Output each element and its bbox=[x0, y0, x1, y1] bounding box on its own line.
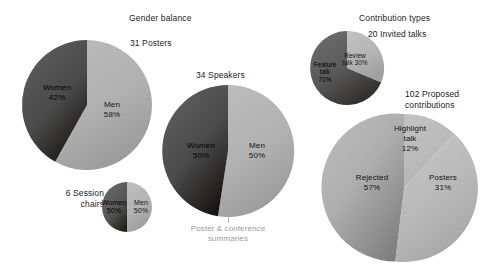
pie-posters-svg bbox=[22, 40, 152, 170]
caption-line2: summaries bbox=[168, 234, 288, 244]
figure-canvas: Gender balance 31 Posters bbox=[0, 0, 501, 267]
heading-contribution-types: Contribution types bbox=[359, 13, 430, 24]
subtitle-session-chairs-line1: 6 Session bbox=[60, 188, 104, 199]
pie-invited-talks-svg bbox=[310, 31, 384, 105]
subtitle-session-chairs-line2: chairs bbox=[60, 199, 104, 210]
pie-chart-proposed-contributions bbox=[330, 114, 478, 262]
subtitle-6-session-chairs: 6 Session chairs bbox=[60, 188, 104, 210]
heading-gender-balance: Gender balance bbox=[129, 13, 192, 24]
subtitle-102-proposed-contributions: 102 Proposed contributions bbox=[405, 89, 459, 111]
pie-chart-posters bbox=[22, 40, 152, 170]
pie-proposed-svg bbox=[330, 114, 478, 262]
pie-chart-speakers bbox=[162, 85, 294, 217]
caption-line1: Poster & conference bbox=[168, 224, 288, 234]
caption-poster-conference-summaries: Poster & conference summaries bbox=[168, 224, 288, 245]
pie-chart-session-chairs bbox=[102, 182, 152, 232]
subtitle-34-speakers: 34 Speakers bbox=[196, 70, 245, 81]
subtitle-proposed-line2: contributions bbox=[405, 100, 459, 111]
slice-chairs-women bbox=[102, 182, 127, 232]
pie-speakers-svg bbox=[162, 85, 294, 217]
slice-chairs-men bbox=[127, 182, 152, 232]
caption-leader-line bbox=[228, 216, 229, 223]
slice-speakers-women bbox=[162, 85, 228, 216]
pie-chart-invited-talks bbox=[310, 31, 384, 105]
subtitle-proposed-line1: 102 Proposed bbox=[405, 89, 459, 100]
slice-speakers-men bbox=[218, 85, 294, 217]
pie-session-chairs-svg bbox=[102, 182, 152, 232]
slice-proposed-rejected bbox=[321, 114, 404, 262]
